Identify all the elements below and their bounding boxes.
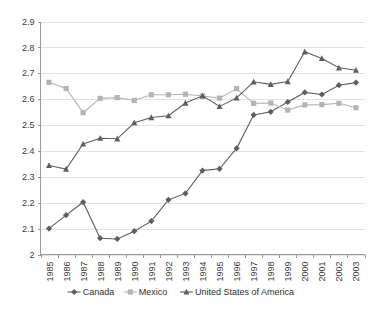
x-tick-label: 1986 (62, 262, 72, 282)
data-point (302, 102, 307, 107)
legend-label: Mexico (139, 287, 168, 297)
data-point (46, 162, 52, 168)
data-point (234, 86, 239, 91)
legend-marker (71, 289, 77, 295)
line-chart: 2.92.82.72.62.52.42.32.22.12 19851986198… (0, 0, 379, 311)
x-tick-label: 1991 (147, 262, 157, 282)
x-tick-label: 1999 (283, 262, 293, 282)
gridlines (41, 23, 365, 256)
y-tick-labels: 2.92.82.72.62.52.42.32.22.12 (22, 17, 35, 260)
data-point (63, 86, 68, 91)
y-tick-label: 2.3 (22, 172, 35, 182)
legend-item-united-states-of-america[interactable]: United States of America (180, 287, 294, 297)
x-tick-label: 1995 (215, 262, 225, 282)
data-series-group (46, 49, 359, 242)
data-point (97, 235, 103, 241)
legend-label: United States of America (195, 287, 294, 297)
data-point (217, 103, 223, 109)
data-point (268, 109, 274, 115)
data-point (46, 80, 51, 85)
data-point (132, 98, 137, 103)
x-tick-label: 2000 (300, 262, 310, 282)
data-point (285, 78, 291, 84)
y-tick-label: 2.6 (22, 94, 35, 104)
x-tick-label: 1994 (198, 262, 208, 282)
data-point (336, 82, 342, 88)
data-point (183, 92, 188, 97)
x-tick-label: 1987 (79, 262, 89, 282)
x-tick-label: 2001 (317, 262, 327, 282)
data-point (353, 105, 358, 110)
data-point (114, 236, 120, 242)
y-tick-label: 2.1 (22, 224, 35, 234)
legend-item-canada[interactable]: Canada (68, 287, 115, 297)
data-point (166, 92, 171, 97)
x-tick-label: 1993 (181, 262, 191, 282)
legend-item-mexico[interactable]: Mexico (124, 287, 168, 297)
data-point (98, 96, 103, 101)
y-axis (38, 22, 41, 256)
y-tick-label: 2.9 (22, 17, 35, 27)
data-point (336, 101, 341, 106)
y-tick-label: 2.4 (22, 146, 35, 156)
x-tick-label: 1990 (130, 262, 140, 282)
data-point (251, 79, 257, 85)
y-tick-label: 2.8 (22, 43, 35, 53)
data-point (336, 65, 342, 71)
x-tick-label: 2002 (334, 262, 344, 282)
x-tick-label: 1985 (45, 262, 55, 282)
legend-marker (128, 289, 133, 294)
chart-canvas: 2.92.82.72.62.52.42.32.22.12 19851986198… (0, 0, 379, 311)
y-tick-label: 2.7 (22, 68, 35, 78)
data-point (251, 112, 257, 118)
y-tick-label: 2 (29, 250, 34, 260)
x-tick-label: 2003 (351, 262, 361, 282)
series-united-states-of-america (46, 49, 359, 172)
data-point (285, 107, 290, 112)
data-point (302, 89, 308, 95)
x-tick-label: 1989 (113, 262, 123, 282)
data-point (149, 92, 154, 97)
x-tick-label: 1996 (232, 262, 242, 282)
x-tick-label: 1998 (266, 262, 276, 282)
x-tick-labels: 1985198619871988198919901991199219931994… (45, 262, 362, 282)
data-point (115, 95, 120, 100)
data-point (217, 96, 222, 101)
y-tick-label: 2.5 (22, 120, 35, 130)
x-tick-label: 1988 (96, 262, 106, 282)
data-point (302, 49, 308, 55)
data-point (319, 91, 325, 97)
x-tick-label: 1997 (249, 262, 259, 282)
data-point (251, 101, 256, 106)
data-point (353, 79, 359, 85)
chart-legend: CanadaMexicoUnited States of America (68, 287, 294, 297)
data-point (81, 110, 86, 115)
data-point (319, 102, 324, 107)
series-line (49, 83, 356, 239)
y-tick-label: 2.2 (22, 198, 35, 208)
data-point (268, 100, 273, 105)
legend-label: Canada (83, 287, 115, 297)
x-tick-label: 1992 (164, 262, 174, 282)
